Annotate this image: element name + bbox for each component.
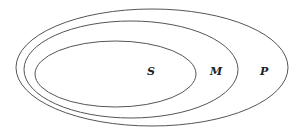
diagram-svg: S M P bbox=[0, 0, 302, 132]
nested-venn-diagram: S M P bbox=[0, 0, 302, 132]
set-s-label: S bbox=[147, 65, 155, 78]
set-m-ellipse bbox=[24, 21, 238, 118]
set-s-ellipse bbox=[35, 41, 196, 107]
set-m-label: M bbox=[209, 65, 223, 78]
set-p-label: P bbox=[259, 65, 269, 78]
